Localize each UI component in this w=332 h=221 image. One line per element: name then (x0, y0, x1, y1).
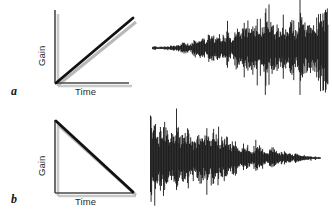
waveform-svg-b (148, 108, 332, 218)
waveform-bars-b (150, 108, 321, 205)
gain-ramp-line-increasing (56, 18, 133, 83)
fade-in-panel: a Gain Time (0, 0, 332, 110)
y-axis-label-b: Gain (36, 156, 47, 176)
y-axis-label-a: Gain (36, 46, 47, 66)
ramp-shadow (58, 22, 136, 85)
waveform-crescendo (148, 0, 332, 110)
fade-envelope-figure: a Gain Time b (0, 0, 332, 221)
waveform-svg-a (148, 0, 332, 110)
x-axis-label-a: Time (75, 86, 96, 97)
gain-ramp-plot-a: Gain Time (0, 0, 150, 110)
gain-ramp-line-decreasing (56, 121, 133, 192)
gain-ramp-plot-b: Gain Time (0, 108, 150, 218)
fade-out-panel: b Gain Time (0, 108, 332, 218)
waveform-decrescendo (148, 108, 332, 218)
x-axis-label-b: Time (75, 196, 96, 207)
waveform-bars-a (152, 0, 328, 95)
